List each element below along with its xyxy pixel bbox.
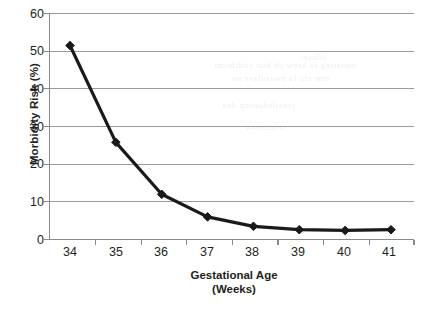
x-axis-title: Gestational Age (Weeks): [49, 268, 419, 297]
plot-area: [0, 0, 424, 310]
x-axis-title-line2: (Weeks): [49, 282, 419, 296]
x-tick-label: 36: [141, 246, 181, 259]
chart-container: noitatseg fo keew yb ksir ytidibrom etar…: [0, 0, 424, 310]
series-line: [70, 46, 391, 231]
y-axis-ticks: [44, 14, 49, 240]
x-axis-title-line1: Gestational Age: [49, 268, 419, 282]
x-tick-label: 41: [369, 246, 409, 259]
x-tick-label: 35: [96, 246, 136, 259]
data-point-marker: [341, 226, 350, 235]
data-point-marker: [249, 222, 258, 231]
x-tick-label: 37: [187, 246, 227, 259]
data-series-morbidity-risk: [66, 41, 396, 235]
data-point-marker: [387, 225, 396, 234]
x-tick-label: 40: [324, 246, 364, 259]
x-tick-label: 34: [50, 246, 90, 259]
x-tick-label: 38: [232, 246, 272, 259]
gridlines: [49, 14, 414, 202]
data-point-marker: [295, 225, 304, 234]
x-tick-label: 39: [278, 246, 318, 259]
